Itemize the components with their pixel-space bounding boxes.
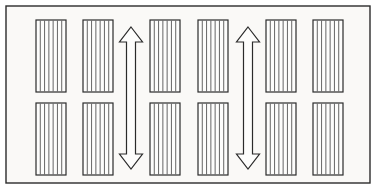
top-row-bay-2 bbox=[83, 20, 113, 92]
bottom-row-bay-5 bbox=[266, 103, 296, 175]
bottom-row-bay-6 bbox=[313, 103, 343, 175]
top-row-bay-3 bbox=[150, 20, 180, 92]
bottom-row-bay-4 bbox=[198, 103, 228, 175]
top-row-bay-1 bbox=[36, 20, 66, 92]
top-row-bay-5 bbox=[266, 20, 296, 92]
top-row-bay-4 bbox=[198, 20, 228, 92]
bottom-row-bay-3 bbox=[150, 103, 180, 175]
figure-container bbox=[0, 0, 378, 196]
bottom-row-bay-2 bbox=[83, 103, 113, 175]
top-row-bay-6 bbox=[313, 20, 343, 92]
bottom-row-bay-1 bbox=[36, 103, 66, 175]
layout-diagram bbox=[0, 0, 378, 196]
